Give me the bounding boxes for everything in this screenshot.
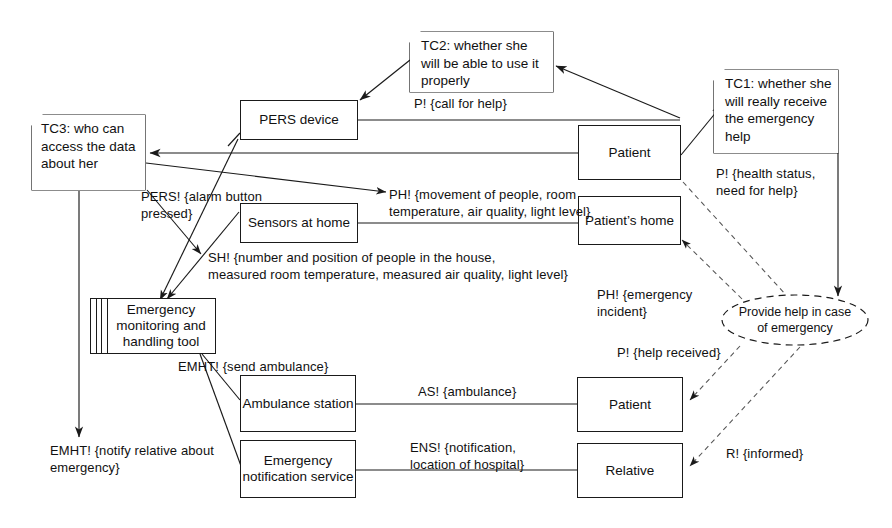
label-emht-send-ambulance: EMHT! {send ambulance} [178,359,328,376]
note-tc1: TC1: whether she will really receive the… [714,70,838,153]
note-tc2-text: TC2: whether she will be able to use it … [421,38,539,88]
edge-patient-to-tc2 [556,66,680,118]
box-patients-home-label: Patient’s home [585,213,674,229]
box-relative: Relative [577,443,683,498]
box-relative-label: Relative [606,463,655,479]
box-ens-label: Emergency notification service [241,453,355,485]
box-patients-home: Patient’s home [578,196,681,245]
box-emht-label: Emergency monitoring and handling tool [107,302,215,350]
note-tc3-text: TC3: who can access the data about her [41,121,136,171]
label-pers-alarm-button: PERS! {alarm button pressed} [141,189,262,222]
requirement-provide-help: Provide help in case of emergency [737,297,853,344]
box-patient-bottom: Patient [577,377,683,432]
problem-frames-diagram: TC3: who can access the data about her T… [0,0,892,528]
box-sensors-at-home-label: Sensors at home [248,215,350,231]
box-pers-device-label: PERS device [259,112,339,128]
box-ambulance-station: Ambulance station [240,375,356,432]
box-emergency-monitoring-handling-tool: Emergency monitoring and handling tool [90,298,216,354]
edge-tc2-to-pers-device [360,60,410,100]
label-p-help-received: P! {help received} [617,345,721,362]
label-sh-number-position: SH! {number and position of people in th… [208,250,568,283]
label-as-ambulance: AS! {ambulance} [418,384,516,401]
edge-tc3-to-ph-movement [146,163,386,192]
box-ambulance-station-label: Ambulance station [242,396,353,412]
note-tc3: TC3: who can access the data about her [32,115,145,190]
label-ens-notification: ENS! {notification, location of hospital… [410,440,524,473]
note-tc1-text: TC1: whether she will really receive the… [725,76,832,144]
component-bars-icon [91,299,107,353]
label-p-health-status: P! {health status, need for help} [716,166,815,199]
requirement-text: Provide help in case of emergency [737,305,853,336]
label-ph-emergency-incident: PH! {emergency incident} [597,287,692,320]
box-pers-device: PERS device [240,100,358,140]
box-patient-bottom-label: Patient [609,397,651,413]
label-ph-movement: PH! {movement of people, room temperatur… [389,187,591,220]
note-tc2: TC2: whether she will be able to use it … [410,32,553,92]
box-patient-top-label: Patient [608,145,650,161]
label-emht-notify-relative: EMHT! {notify relative about emergency} [50,443,214,476]
label-call-for-help: P! {call for help} [414,96,507,113]
label-r-informed: R! {informed} [726,446,803,463]
box-patient-top: Patient [578,125,681,180]
box-emergency-notification-service: Emergency notification service [240,440,356,498]
